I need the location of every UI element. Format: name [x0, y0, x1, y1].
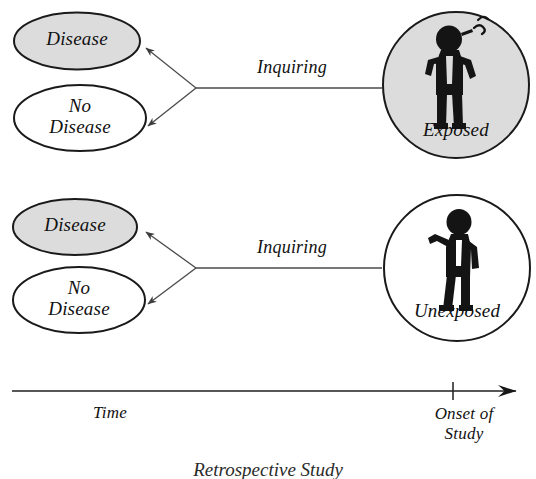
figure-caption-text: Retrospective Study [0, 461, 536, 479]
outcome-label-no-disease-exposed: No Disease [14, 95, 146, 138]
time-axis [12, 382, 516, 400]
edge-label-inquiring-exposed: Inquiring [222, 58, 362, 77]
group-label-exposed: Exposed [396, 120, 516, 140]
axis-label-onset-of-study: Onset of Study [408, 404, 520, 444]
retrospective-study-diagram: Disease No Disease Inquiring Exposed Dis… [0, 0, 536, 479]
axis-label-time: Time [60, 404, 160, 422]
outcome-label-disease-unexposed: Disease [13, 215, 137, 235]
edge-label-inquiring-unexposed: Inquiring [222, 238, 362, 257]
outcome-label-disease-exposed: Disease [14, 29, 140, 49]
group-label-unexposed: Unexposed [391, 301, 523, 321]
outcome-label-no-disease-unexposed: No Disease [13, 277, 145, 320]
figure-caption: Retrospective Study [0, 461, 536, 479]
